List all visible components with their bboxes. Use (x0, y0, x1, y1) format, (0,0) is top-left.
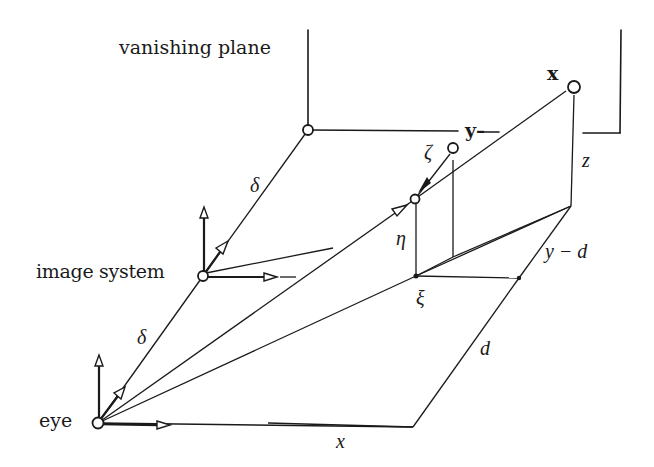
label-point-X: x (547, 64, 558, 83)
zeta-line (415, 154, 450, 199)
label-image-system: image system (36, 262, 164, 281)
label-delta-lower: δ (137, 327, 146, 347)
image-system-axes (200, 207, 277, 281)
label-delta-upper: δ (250, 175, 259, 195)
label-x: x (336, 431, 345, 451)
label-axis-y: y– (465, 121, 486, 140)
eta-node (411, 195, 420, 204)
X-node (568, 81, 580, 93)
label-d: d (480, 338, 490, 358)
image-system-node (198, 271, 208, 281)
vanishing-node (303, 125, 313, 135)
zeta-node (448, 143, 458, 153)
label-eta: η (396, 228, 406, 248)
label-eye: eye (39, 411, 72, 430)
label-y-minus-d: y − d (545, 241, 587, 261)
label-xi: ξ (416, 288, 425, 308)
projection-rays (98, 199, 416, 427)
label-z: z (582, 150, 590, 170)
label-zeta: ζ (424, 142, 432, 162)
image-system-stubs (206, 248, 333, 277)
zeta-arrowhead (418, 177, 431, 193)
ray-to-X (415, 91, 566, 199)
y-minus-d-point (517, 276, 521, 280)
label-vanishing-plane: vanishing plane (119, 38, 271, 57)
eye-node (93, 418, 104, 429)
xi-point (414, 274, 419, 279)
